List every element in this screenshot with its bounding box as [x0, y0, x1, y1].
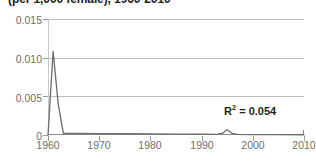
y-axis-label-2: 0.005	[0, 93, 42, 104]
x-axis-label-1980: 1980	[130, 140, 170, 151]
x-axis-label-1960: 1960	[28, 140, 68, 151]
x-axis-label-2000: 2000	[233, 140, 273, 151]
data-series-line	[48, 19, 304, 135]
r-squared-prefix: R	[224, 105, 232, 117]
x-axis-label-1970: 1970	[79, 140, 119, 151]
r-squared-value: = 0.054	[236, 105, 276, 117]
y-axis-label-1: 0.010	[0, 54, 42, 65]
chart-container: (per 1,000 female), 1960-2010 0.015 0.01…	[0, 0, 316, 165]
x-axis-label-1990: 1990	[182, 140, 222, 151]
plot-area	[48, 19, 304, 135]
y-axis-label-0: 0.015	[0, 15, 42, 26]
x-axis-label-2010: 2010	[284, 140, 316, 151]
r-squared-annotation: R2 = 0.054	[224, 103, 276, 117]
series-polyline	[48, 51, 304, 135]
